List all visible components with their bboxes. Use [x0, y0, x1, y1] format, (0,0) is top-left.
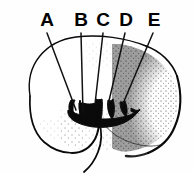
labels-group: A B C D E	[40, 9, 160, 30]
label-b: B	[74, 9, 88, 30]
label-e: E	[148, 9, 161, 30]
anatomical-line-drawing: A B C D E	[0, 0, 194, 174]
figure-container: A B C D E	[0, 0, 194, 174]
upper-stipple	[86, 42, 146, 68]
label-d: D	[119, 9, 133, 30]
lower-right-contour	[126, 153, 148, 156]
label-c: C	[96, 9, 110, 30]
label-a: A	[40, 9, 54, 30]
